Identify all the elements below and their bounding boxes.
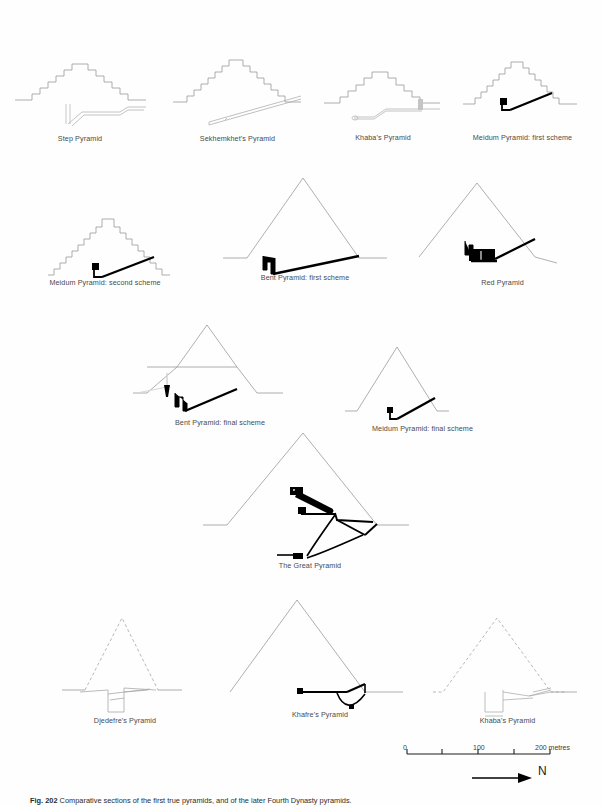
panel-step-pyramid: Step Pyramid [10,40,150,130]
panel-label-djedefres-pyramid: Djedefre's Pyramid [50,716,200,725]
meidum-final-outline [345,347,449,411]
panel-label-step-pyramid: Step Pyramid [10,134,150,143]
meidum-first-outline [463,62,577,104]
panel-meidum-first-scheme: Meidum Pyramid: first scheme [455,38,590,130]
panel-khabas-pyramid-top: Khaba's Pyramid [318,45,448,130]
panel-bent-final-scheme: Bent Pyramid: final scheme [125,315,315,430]
panel-khafres-pyramid: Khafre's Pyramid [225,592,415,722]
khafre-outline [230,600,403,692]
bent-first-outline [223,178,387,258]
scale-bar [405,745,555,761]
panel-bent-first-scheme: Bent Pyramid: first scheme [215,170,395,280]
panel-label-bent-first-scheme: Bent Pyramid: first scheme [215,273,395,282]
figure-caption: Fig. 202 Comparative sections of the fir… [30,796,575,806]
panel-sekhemkhets-pyramid: Sekhemkhet's Pyramid [165,40,310,130]
step-pyramid-passage [68,107,146,126]
meidum-first-burial-chamber [500,93,552,110]
sekhemkhet-pyramid-outline [173,60,301,102]
figure-caption-text: Comparative sections of the first true p… [60,796,352,805]
panel-label-sekhemkhets-pyramid: Sekhemkhet's Pyramid [165,134,310,143]
khaba-top-passage [352,99,440,120]
meidum-second-outline [48,219,170,275]
panel-label-khabas-pyramid-bottom: Khaba's Pyramid [425,716,590,725]
bent-first-chambers [263,256,359,274]
panel-label-meidum-first-scheme: Meidum Pyramid: first scheme [455,133,590,142]
great-pyramid-subterranean-chamber [277,553,303,559]
step-pyramid-shaft [66,104,70,124]
khaba-top-outline [324,72,440,103]
north-label: N [538,764,547,778]
panel-red-pyramid: Red Pyramid [415,175,590,280]
panel-label-great-pyramid: The Great Pyramid [195,561,425,570]
meidum-second-burial-chamber [92,257,154,277]
step-pyramid-outline [15,64,146,100]
panel-label-meidum-second-scheme: Meidum Pyramid: second scheme [30,278,180,287]
panel-label-red-pyramid: Red Pyramid [415,278,590,287]
bent-final-lower-chamber [175,389,237,411]
red-pyramid-chambers [465,239,535,261]
great-pyramid-ascending-passage [335,513,377,535]
panel-meidum-final-scheme: Meidum Pyramid: final scheme [335,325,510,430]
panel-label-khafres-pyramid: Khafre's Pyramid [225,710,415,719]
north-arrow-icon [470,768,536,792]
djedefre-reconstructed-outline [85,618,158,690]
khaba-bottom-reconstructed-outline [433,618,565,692]
figure-number: Fig. 202 [30,796,58,805]
panel-djedefres-pyramid: Djedefre's Pyramid [50,600,200,725]
djedefre-trench [80,688,156,712]
panel-khabas-pyramid-bottom: Khaba's Pyramid [425,600,590,725]
bent-final-outline [133,325,283,393]
meidum-final-burial-chamber [387,398,435,419]
sekhemkhet-descending-passage [209,96,301,125]
panel-great-pyramid: The Great Pyramid [195,425,425,575]
pyramid-sections-figure: Step Pyramid Sekhemkhet's Pyramid [0,0,603,806]
khafre-chambers [297,684,365,709]
panel-label-khabas-pyramid-top: Khaba's Pyramid [318,133,448,142]
khaba-bottom-trench [485,688,551,716]
panel-meidum-second-scheme: Meidum Pyramid: second scheme [30,185,180,280]
